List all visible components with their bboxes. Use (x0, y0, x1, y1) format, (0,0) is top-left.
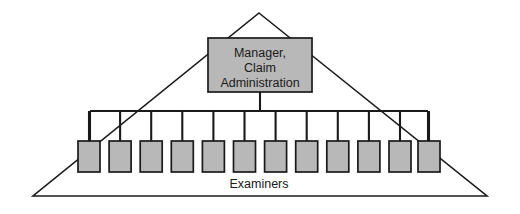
examiner-box-12[interactable] (418, 141, 440, 172)
examiner-box-5[interactable] (202, 141, 224, 172)
examiner-node-layer (78, 141, 440, 172)
examiners-group-label: Examiners (229, 177, 288, 191)
examiner-box-2[interactable] (109, 141, 131, 172)
org-chart-diagram: Manager, Claim Administration Examiners (0, 0, 520, 214)
examiner-box-4[interactable] (171, 141, 193, 172)
connector-layer (89, 92, 429, 141)
examiner-box-11[interactable] (389, 141, 411, 172)
manager-label-line-2: Claim (244, 61, 276, 75)
examiner-box-1[interactable] (78, 141, 100, 172)
org-chart-canvas: Manager, Claim Administration Examiners (0, 0, 520, 214)
manager-label-line-1: Manager, (234, 46, 286, 60)
examiner-box-3[interactable] (140, 141, 162, 172)
examiner-box-8[interactable] (296, 141, 318, 172)
examiner-box-6[interactable] (234, 141, 256, 172)
examiner-box-7[interactable] (265, 141, 287, 172)
manager-label-line-3: Administration (220, 76, 299, 90)
examiner-box-9[interactable] (327, 141, 349, 172)
examiner-box-10[interactable] (358, 141, 380, 172)
